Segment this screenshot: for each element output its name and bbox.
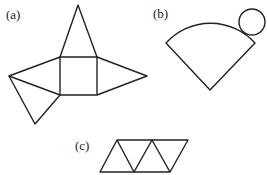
label-b: (b) [153,6,168,21]
circle-base [239,9,265,35]
net-c: (c) [75,138,188,172]
triangle-right [97,57,147,95]
sector [166,23,255,90]
triangle-bottom [9,76,60,124]
diagram-canvas: (a) (b) (c) [0,0,267,175]
triangle-top [60,5,97,57]
label-a: (a) [6,7,20,22]
square-base [60,57,97,95]
label-c: (c) [75,138,89,153]
net-b: (b) [153,6,265,90]
strip-inner-lines [117,140,170,172]
net-a: (a) [6,5,147,124]
strip-outline [100,140,188,172]
